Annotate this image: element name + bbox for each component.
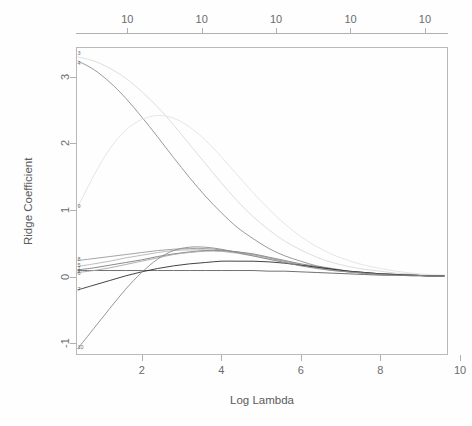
top-tick-label: 10 — [419, 13, 431, 25]
tick-mark — [276, 28, 277, 33]
series-label-4: 4 — [78, 61, 81, 67]
top-tick-label: 10 — [344, 13, 356, 25]
tick-mark — [425, 28, 426, 33]
tick-mark — [127, 28, 128, 33]
x-axis-title: Log Lambda — [230, 394, 294, 406]
tick-mark — [380, 355, 381, 361]
x-tick-label: 6 — [298, 364, 304, 376]
x-tick-label: 8 — [377, 364, 383, 376]
tick-mark — [70, 343, 76, 344]
series-label-7: 7 — [78, 287, 81, 293]
series-label-10: 10 — [78, 345, 84, 351]
tick-mark — [460, 355, 461, 361]
top-tick-label: 10 — [121, 13, 133, 25]
series-label-6: 6 — [78, 271, 81, 277]
y-tick-label: 2 — [59, 140, 71, 146]
y-axis-title: Ridge Coefficient — [22, 157, 34, 244]
top-axis-line — [76, 33, 448, 34]
top-tick-label: 10 — [270, 13, 282, 25]
x-tick-label: 10 — [454, 364, 466, 376]
tick-mark — [301, 355, 302, 361]
series-label-9: 9 — [78, 204, 81, 210]
tick-mark — [142, 355, 143, 361]
y-tick-label: -1 — [59, 338, 71, 348]
y-tick-label: 0 — [59, 273, 71, 279]
y-tick-label: 3 — [59, 74, 71, 80]
tick-mark — [221, 355, 222, 361]
tick-mark — [350, 28, 351, 33]
ridge-coefficient-path-chart: 34985126710 246810 3210-1 1010101010 Log… — [0, 0, 472, 426]
tick-mark — [202, 28, 203, 33]
y-tick-label: 1 — [59, 207, 71, 213]
x-tick-label: 4 — [218, 364, 224, 376]
top-tick-label: 10 — [196, 13, 208, 25]
series-label-3: 3 — [78, 51, 81, 57]
x-tick-label: 2 — [139, 364, 145, 376]
plot-area — [76, 47, 448, 355]
